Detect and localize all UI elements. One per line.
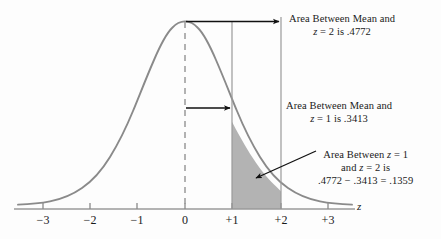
shaded-area-z1-to-z2 (232, 122, 281, 209)
annotation-area-z1-to-z2-line2-pre: and (341, 162, 359, 173)
annotation-area-mean-to-z1-line2: z = 1 is .3413 (286, 112, 392, 125)
x-tick-label-zero: 0 (182, 213, 188, 228)
normal-distribution-figure: Area Between Mean and z = 2 is .4772 Are… (0, 0, 441, 239)
annotation-area-mean-to-z2-value: = 2 is .4772 (317, 26, 371, 37)
annotation-area-mean-to-z2: Area Between Mean and z = 2 is .4772 (289, 12, 395, 38)
annotation-area-mean-to-z2-line2: z = 2 is .4772 (289, 25, 395, 38)
annotation-area-mean-to-z1-value: = 1 is .3413 (314, 113, 368, 124)
x-tick-label-pos1: +1 (226, 213, 239, 228)
x-tick-label-neg3: −3 (37, 213, 50, 228)
annotation-area-z1-to-z2-line1: Area Between z = 1 (318, 148, 413, 161)
x-tick-label-neg2: −2 (84, 213, 97, 228)
annotation-area-z1-to-z2-line3: .4772 − .3413 = .1359 (318, 174, 413, 187)
annotation-area-mean-to-z2-line1: Area Between Mean and (289, 12, 395, 25)
x-axis-label: z (357, 200, 361, 212)
annotation-area-z1-to-z2-line2-post: = 2 is (363, 162, 390, 173)
annotation-area-mean-to-z1: Area Between Mean and z = 1 is .3413 (286, 99, 392, 125)
annotation-area-z1-to-z2-line1-post: = 1 (391, 149, 408, 160)
annotation-area-z1-to-z2-line1-pre: Area Between (323, 149, 387, 160)
x-tick-label-pos2: +2 (275, 213, 288, 228)
x-tick-label-neg1: −1 (131, 213, 144, 228)
annotation-area-z1-to-z2: Area Between z = 1 and z = 2 is .4772 − … (318, 148, 413, 187)
x-tick-label-pos3: +3 (322, 213, 335, 228)
annotation-area-mean-to-z1-line1: Area Between Mean and (286, 99, 392, 112)
annotation-area-z1-to-z2-line2: and z = 2 is (318, 161, 413, 174)
